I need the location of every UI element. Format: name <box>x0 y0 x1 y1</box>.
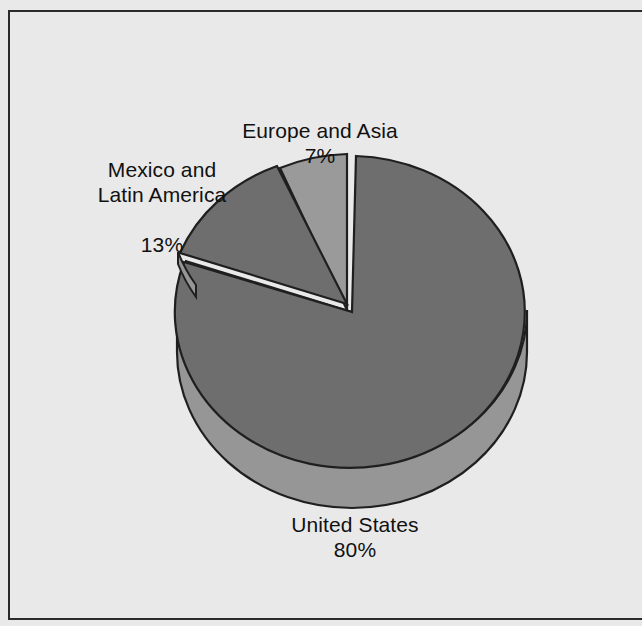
slice-label-united-states: United States 80% <box>240 487 470 587</box>
slice-label-mexico-latin-america-percent: 13% <box>52 232 272 257</box>
slice-label-mexico-latin-america-line1: Mexico and <box>108 158 216 181</box>
pie-chart-figure: Europe and Asia 7% Mexico and Latin Amer… <box>0 0 642 626</box>
slice-label-united-states-percent: 80% <box>240 537 470 562</box>
slice-label-mexico-latin-america-line2: Latin America <box>52 182 272 207</box>
slice-label-united-states-name: United States <box>291 513 418 536</box>
slice-label-mexico-latin-america: Mexico and Latin America 13% <box>52 132 272 282</box>
